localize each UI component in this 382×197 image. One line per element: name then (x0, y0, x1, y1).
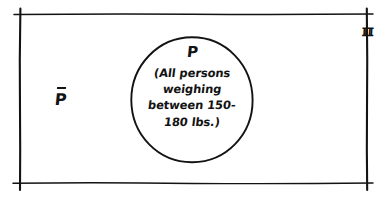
set-p-description-line-4: 180 lbs.) (163, 114, 221, 130)
complement-set-label: P (54, 86, 68, 109)
universal-set-label: ℼ (362, 21, 375, 40)
set-p-content: P (All persons weighing between 150- 180… (131, 38, 253, 162)
overbar-mark (57, 87, 66, 89)
rectangle-bottom-edge (13, 183, 373, 184)
set-p-description-line-3: between 150- (147, 97, 237, 113)
set-p-description-line-2: weighing (162, 81, 222, 97)
rectangle-top-edge (14, 14, 373, 15)
rectangle-left-edge (20, 9, 21, 191)
venn-diagram-figure: ℼ P P (All persons weighing between 150-… (0, 0, 382, 197)
set-p-label: P (186, 45, 199, 61)
complement-set-letter: P (54, 86, 68, 109)
set-p-description-line-1: (All persons (153, 65, 231, 81)
